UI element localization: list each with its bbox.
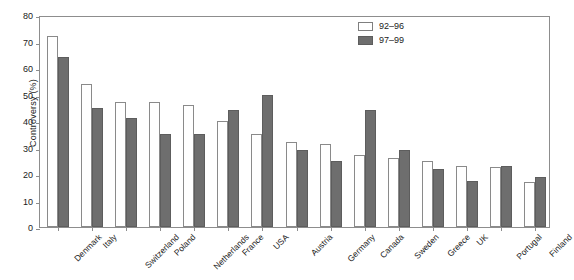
x-tick-mark — [467, 227, 468, 231]
x-axis-label-portugal: Portugal — [514, 232, 543, 261]
y-tick-label: 0 — [28, 223, 33, 233]
x-axis-label-germany: Germany — [345, 232, 377, 264]
x-tick-mark — [535, 227, 536, 231]
x-axis-label-uk: UK — [474, 232, 489, 247]
bar-group — [456, 17, 478, 227]
x-axis-label-italy: Italy — [101, 232, 119, 250]
bar — [228, 110, 239, 227]
bar-group — [217, 17, 239, 227]
bar — [399, 150, 410, 227]
bar-group — [422, 17, 444, 227]
bar-group — [524, 17, 546, 227]
x-axis-label-usa: USA — [272, 232, 291, 251]
legend-swatch-open-square — [358, 22, 373, 31]
bar-group — [354, 17, 376, 227]
plot-area: 01020304050607080 — [39, 16, 550, 228]
bar — [467, 181, 478, 227]
y-tick-label: 40 — [23, 117, 33, 127]
bar — [524, 182, 535, 227]
legend-label-0: 92–96 — [379, 21, 404, 31]
legend-item-1: 97–99 — [358, 34, 404, 46]
bar-group — [47, 17, 69, 227]
legend-label-1: 97–99 — [379, 35, 404, 45]
bar — [365, 110, 376, 227]
legend-item-0: 92–96 — [358, 20, 404, 32]
bar — [183, 105, 194, 227]
x-axis-label-denmark: Denmark — [72, 232, 103, 263]
y-tick-label: 60 — [23, 64, 33, 74]
bar-group — [149, 17, 171, 227]
x-axis-label-finland: Finland — [547, 232, 574, 259]
bar — [81, 84, 92, 227]
x-tick-mark — [58, 227, 59, 231]
x-tick-mark — [331, 227, 332, 231]
bar — [160, 134, 171, 227]
x-tick-mark — [92, 227, 93, 231]
x-tick-mark — [228, 227, 229, 231]
bar-group — [286, 17, 308, 227]
y-axis-label: Controversy (%) — [28, 33, 38, 193]
bar — [47, 36, 58, 227]
bar — [217, 121, 228, 227]
bar — [58, 57, 69, 227]
bar — [320, 144, 331, 227]
bar — [490, 167, 501, 227]
bar — [251, 134, 262, 227]
bar — [422, 161, 433, 227]
bar — [92, 108, 103, 227]
x-tick-mark — [160, 227, 161, 231]
chart-legend: 92–96 97–99 — [358, 20, 404, 48]
y-tick-label: 80 — [23, 11, 33, 21]
x-axis-label-greece: Greece — [445, 232, 472, 259]
legend-swatch-filled-square — [358, 36, 373, 45]
x-axis-labels: DenmarkItalySwitzerlandPolandNetherlands… — [39, 232, 550, 280]
bar — [262, 95, 273, 228]
bar-series-container — [40, 17, 549, 227]
bar — [433, 169, 444, 227]
x-tick-mark — [297, 227, 298, 231]
bar — [501, 166, 512, 227]
bar — [388, 158, 399, 227]
bar — [126, 118, 137, 227]
y-tick-label: 50 — [23, 91, 33, 101]
x-tick-mark — [126, 227, 127, 231]
x-tick-mark — [433, 227, 434, 231]
bar-group — [115, 17, 137, 227]
x-tick-mark — [262, 227, 263, 231]
y-tick-label: 30 — [23, 144, 33, 154]
bar-group — [320, 17, 342, 227]
bar-group — [388, 17, 410, 227]
x-axis-label-canada: Canada — [377, 232, 405, 260]
bar — [535, 177, 546, 227]
bar — [286, 142, 297, 227]
x-tick-mark — [399, 227, 400, 231]
bar — [354, 155, 365, 227]
bar — [115, 102, 126, 227]
x-tick-mark — [365, 227, 366, 231]
y-tick-mark — [36, 229, 40, 230]
bar — [194, 134, 205, 227]
bar-group — [183, 17, 205, 227]
bar — [331, 161, 342, 227]
y-tick-label: 10 — [23, 197, 33, 207]
x-tick-mark — [501, 227, 502, 231]
bar-group — [490, 17, 512, 227]
bar-group — [81, 17, 103, 227]
y-tick-label: 70 — [23, 38, 33, 48]
bar-group — [251, 17, 273, 227]
y-tick-label: 20 — [23, 170, 33, 180]
x-axis-label-austria: Austria — [308, 232, 334, 258]
bar — [297, 150, 308, 227]
bar — [456, 166, 467, 227]
bar — [149, 102, 160, 227]
x-axis-label-sweden: Sweden — [412, 232, 441, 261]
x-tick-mark — [194, 227, 195, 231]
